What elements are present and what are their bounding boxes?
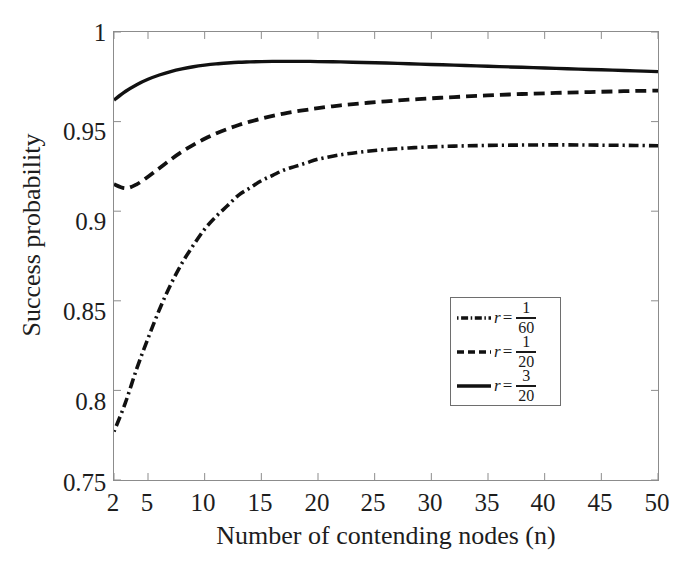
- fraction-numerator: 3: [520, 368, 532, 384]
- xtick-label-15: 15: [240, 490, 280, 515]
- legend-item-r-3-20[interactable]: r = 3 20: [451, 369, 560, 403]
- y-axis-title: Success probability: [17, 55, 47, 415]
- figure-canvas: 1 0.95 0.9 0.85 0.8 0.75 2 5 10 15 20 25…: [0, 0, 694, 578]
- xtick-label-50: 50: [637, 490, 677, 515]
- series-line-2: [114, 61, 658, 100]
- dashed-line-icon: [456, 347, 492, 357]
- xtick-label-20: 20: [297, 490, 337, 515]
- legend-variable: r: [494, 376, 501, 396]
- xtick-label-10: 10: [183, 490, 223, 515]
- plot-area: [113, 31, 659, 481]
- legend-equals: =: [503, 342, 513, 362]
- legend-equals: =: [503, 376, 513, 396]
- fraction-denominator: 20: [516, 388, 536, 404]
- dash-dot-line-icon: [456, 313, 492, 323]
- xtick-label-30: 30: [410, 490, 450, 515]
- xtick-label-5: 5: [127, 490, 167, 515]
- series-line-0: [114, 145, 658, 432]
- chart-legend: r = 1 60 r = 1 20: [450, 297, 561, 406]
- xtick-label-25: 25: [353, 490, 393, 515]
- series-line-1: [114, 91, 658, 189]
- legend-fraction: 3 20: [516, 368, 536, 404]
- axis-ticks: [114, 32, 658, 480]
- xtick-label-35: 35: [467, 490, 507, 515]
- legend-label-r-1-60: r = 1 60: [494, 300, 536, 336]
- fraction-numerator: 1: [520, 334, 532, 350]
- solid-line-icon: [456, 381, 492, 391]
- legend-fraction: 1 20: [516, 334, 536, 370]
- plot-svg: [114, 32, 658, 480]
- ytick-label-1: 1: [28, 20, 106, 45]
- legend-fraction: 1 60: [516, 300, 536, 336]
- legend-item-r-1-20[interactable]: r = 1 20: [451, 335, 560, 369]
- legend-variable: r: [494, 342, 501, 362]
- legend-item-r-1-60[interactable]: r = 1 60: [451, 301, 560, 335]
- legend-label-r-3-20: r = 3 20: [494, 368, 536, 404]
- legend-label-r-1-20: r = 1 20: [494, 334, 536, 370]
- fraction-numerator: 1: [520, 300, 532, 316]
- xtick-label-45: 45: [580, 490, 620, 515]
- legend-variable: r: [494, 308, 501, 328]
- data-curves: [114, 61, 658, 431]
- xtick-label-40: 40: [523, 490, 563, 515]
- legend-equals: =: [503, 308, 513, 328]
- x-axis-title: Number of contending nodes (n): [113, 521, 659, 551]
